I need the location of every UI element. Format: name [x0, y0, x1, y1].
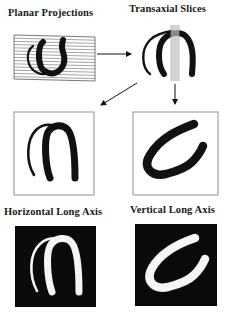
- transaxial-slice-panel: [143, 25, 193, 81]
- horizontal-long-axis-image-panel: [15, 226, 96, 307]
- planar-projection-panel: [14, 35, 95, 81]
- horizontal-long-axis-outline-panel: [14, 112, 94, 195]
- vertical-long-axis-outline-panel: [133, 112, 218, 195]
- slice-lines: [171, 25, 179, 81]
- arrow-down-left: [101, 83, 137, 105]
- vertical-long-axis-image-panel: [135, 224, 217, 306]
